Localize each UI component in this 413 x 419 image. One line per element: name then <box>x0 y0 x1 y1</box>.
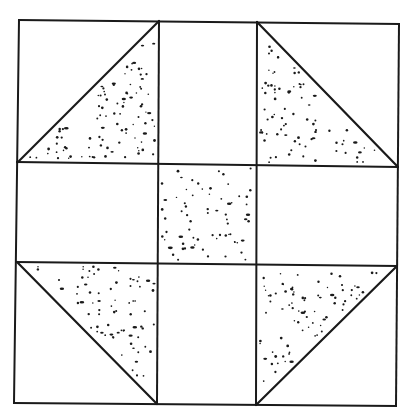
stipple-dot <box>177 259 179 261</box>
stipple-dot <box>286 345 289 348</box>
stipple-dot <box>124 156 126 158</box>
stipple-dot <box>141 141 143 143</box>
stipple-dot <box>306 316 308 318</box>
stipple-dot <box>317 280 319 282</box>
stipple-dot <box>138 150 140 152</box>
stipple-dot <box>116 123 119 126</box>
stipple-dot <box>141 78 144 80</box>
stipple-dot <box>375 272 377 274</box>
stipple-dot <box>298 71 300 73</box>
stipple-dot <box>330 294 334 296</box>
stipple-dot <box>135 300 136 301</box>
stipple-dot <box>274 85 276 87</box>
stipple-dot <box>87 276 89 278</box>
stipple-dot <box>314 119 316 121</box>
stipple-dot <box>106 98 109 101</box>
stipple-dot <box>153 139 156 142</box>
stipple-dot <box>56 151 58 153</box>
stipple-dot <box>132 348 135 350</box>
stipple-dot <box>353 141 358 144</box>
stipple-dot <box>130 84 132 86</box>
stipple-dot <box>140 88 142 90</box>
stipple-dot <box>266 133 268 135</box>
stipple-dot <box>138 67 141 70</box>
stipple-dot <box>264 108 266 110</box>
stipple-dot <box>186 214 188 216</box>
stipple-dot <box>161 208 164 211</box>
stipple-dot <box>101 106 104 109</box>
stipple-dot <box>371 271 374 274</box>
stipple-dot <box>328 130 330 132</box>
stipple-dot <box>92 266 95 269</box>
stipple-dot <box>98 313 100 315</box>
stipple-dot <box>216 238 218 240</box>
stipple-dot <box>161 182 164 185</box>
stipple-dot <box>260 129 262 131</box>
stipple-dot <box>122 98 126 100</box>
stipple-dot <box>113 112 115 114</box>
stipple-dot <box>141 103 143 105</box>
stipple-dot <box>341 284 343 286</box>
stipple-dot <box>61 136 63 138</box>
stipple-dot <box>244 218 248 220</box>
stipple-dot <box>96 331 98 333</box>
stipple-dot <box>209 193 211 195</box>
stipple-dot <box>238 195 240 197</box>
stipple-dot <box>194 244 196 246</box>
stipple-dot <box>342 303 344 305</box>
stipple-dot <box>113 311 116 314</box>
stipple-dot <box>362 161 364 163</box>
stipple-dot <box>138 276 140 278</box>
stipple-dot <box>297 136 300 139</box>
stipple-dot <box>301 311 306 314</box>
stipple-dot <box>189 220 191 222</box>
stipple-dot <box>222 173 224 175</box>
stipple-dot <box>182 242 185 245</box>
stipple-dot <box>77 302 79 304</box>
stipple-dot <box>37 268 39 270</box>
stipple-dot <box>342 289 344 291</box>
stipple-dot <box>292 287 294 289</box>
stipple-dot <box>107 324 110 327</box>
stipple-dot <box>261 132 263 134</box>
stipple-dot <box>144 346 146 348</box>
stipple-dot <box>98 292 100 294</box>
stipple-dot <box>314 311 316 313</box>
stipple-dot <box>285 123 287 125</box>
stipple-dot <box>308 326 310 328</box>
stipple-dot <box>280 337 283 340</box>
stipple-dot <box>342 309 344 311</box>
stipple-dot <box>269 300 271 302</box>
stipple-dot <box>358 151 362 153</box>
stipple-dot <box>321 331 323 333</box>
stipple-dot <box>141 45 144 47</box>
stipple-dot <box>136 374 138 376</box>
stipple-dot <box>297 274 299 276</box>
stipple-dot <box>100 86 103 88</box>
stipple-dot <box>274 71 276 73</box>
stipple-dot <box>80 301 85 304</box>
stipple-dot <box>294 320 296 322</box>
stipple-dot <box>129 335 133 337</box>
stipple-dot <box>304 145 306 147</box>
stipple-dot <box>354 285 356 287</box>
stipple-dot <box>125 132 127 134</box>
stipple-dot <box>136 92 138 94</box>
stipple-dot <box>351 289 353 291</box>
stipple-dot <box>181 210 183 212</box>
stipple-dot <box>374 149 376 151</box>
stipple-dot <box>314 131 316 133</box>
stipple-dot <box>113 84 115 86</box>
stipple-dot <box>140 73 142 75</box>
stipple-dot <box>263 277 265 279</box>
stipple-dot <box>227 202 232 205</box>
stipple-dot <box>122 105 125 108</box>
stipple-dot <box>280 273 282 275</box>
stipple-dot <box>219 234 221 236</box>
stipple-dot <box>121 129 123 131</box>
stipple-dot <box>29 156 31 158</box>
stipple-dot <box>180 177 183 179</box>
stipple-dot <box>356 156 358 158</box>
stipple-dot <box>283 125 285 127</box>
stipple-dot <box>275 292 277 294</box>
